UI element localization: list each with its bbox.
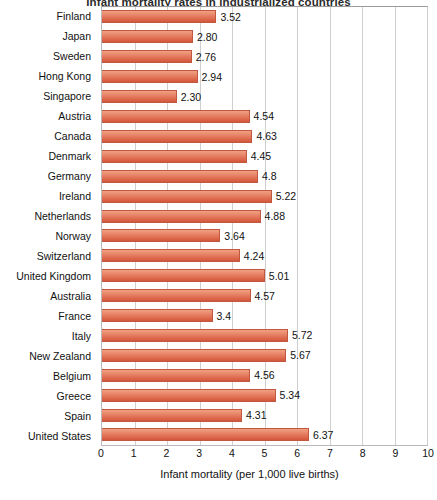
x-tick-label: 6: [294, 447, 300, 459]
bar-row: 3.4: [102, 306, 427, 326]
bar: [102, 389, 276, 402]
bar-value-label: 2.76: [196, 51, 216, 63]
x-tick-label: 5: [262, 447, 268, 459]
category-label: United States: [0, 426, 96, 446]
category-label: Ireland: [0, 186, 96, 206]
bar: [102, 150, 247, 163]
bar: [102, 369, 250, 382]
category-label: Netherlands: [0, 206, 96, 226]
bar-value-label: 6.37: [313, 429, 333, 441]
x-tick-label: 9: [392, 447, 398, 459]
bar-series: 3.522.802.762.942.304.544.634.454.85.224…: [102, 7, 427, 445]
bar-row: 4.54: [102, 107, 427, 127]
bar-value-label: 5.72: [292, 329, 312, 341]
bar: [102, 229, 220, 242]
bar-value-label: 5.67: [290, 349, 310, 361]
category-axis-labels: FinlandJapanSwedenHong KongSingaporeAust…: [0, 6, 96, 446]
bar-row: 4.57: [102, 286, 427, 306]
category-label: Canada: [0, 126, 96, 146]
bar: [102, 428, 309, 441]
category-label: Greece: [0, 386, 96, 406]
bar: [102, 409, 242, 422]
category-label: Hong Kong: [0, 66, 96, 86]
bar-value-label: 4.56: [254, 369, 274, 381]
bar-row: 5.22: [102, 186, 427, 206]
bar-value-label: 2.94: [202, 71, 222, 83]
infant-mortality-bar-chart: Infant mortality rates in industrialized…: [0, 0, 437, 500]
category-label: Singapore: [0, 86, 96, 106]
x-tick-label: 10: [422, 447, 434, 459]
category-label: France: [0, 306, 96, 326]
bar-value-label: 4.63: [256, 130, 276, 142]
x-axis-title-text: Infant mortality (per 1,000 live births): [160, 468, 339, 480]
bar-row: 4.45: [102, 146, 427, 166]
bar-row: 5.67: [102, 345, 427, 365]
x-tick-label: 7: [327, 447, 333, 459]
bar-row: 4.56: [102, 365, 427, 385]
bar-value-label: 3.64: [224, 230, 244, 242]
category-label: Switzerland: [0, 246, 96, 266]
bar-value-label: 4.57: [255, 290, 275, 302]
category-label: United Kingdom: [0, 266, 96, 286]
category-label: Austria: [0, 106, 96, 126]
gridline: [427, 7, 428, 445]
bar: [102, 349, 286, 362]
bar-value-label: 4.54: [254, 110, 274, 122]
category-label: Spain: [0, 406, 96, 426]
category-label: Australia: [0, 286, 96, 306]
bar-row: 2.76: [102, 47, 427, 67]
bar: [102, 90, 177, 103]
plot-area: 3.522.802.762.942.304.544.634.454.85.224…: [101, 6, 428, 446]
bar: [102, 10, 216, 23]
category-label: Finland: [0, 6, 96, 26]
bar: [102, 269, 265, 282]
category-label: Denmark: [0, 146, 96, 166]
bar-value-label: 5.01: [269, 270, 289, 282]
bar-value-label: 5.22: [276, 190, 296, 202]
bar-row: 4.63: [102, 126, 427, 146]
category-label: Germany: [0, 166, 96, 186]
bar: [102, 249, 240, 262]
x-tick-label: 3: [196, 447, 202, 459]
bar-value-label: 4.31: [246, 409, 266, 421]
bar-value-label: 3.4: [217, 310, 232, 322]
x-axis-title: Infant mortality (per 1,000 live births): [0, 468, 437, 480]
bar-row: 5.72: [102, 326, 427, 346]
bar: [102, 210, 261, 223]
bar: [102, 170, 258, 183]
bar-row: 4.88: [102, 206, 427, 226]
x-tick-label: 0: [98, 447, 104, 459]
bar: [102, 289, 251, 302]
bar-value-label: 4.8: [262, 170, 277, 182]
x-tick-label: 2: [163, 447, 169, 459]
bar: [102, 50, 192, 63]
x-tick-label: 8: [360, 447, 366, 459]
bar-row: 4.24: [102, 246, 427, 266]
category-label: Sweden: [0, 46, 96, 66]
bar: [102, 70, 198, 83]
bar-row: 2.80: [102, 27, 427, 47]
category-label: Belgium: [0, 366, 96, 386]
bar: [102, 190, 272, 203]
bar-row: 4.31: [102, 405, 427, 425]
bar-row: 6.37: [102, 425, 427, 445]
bar-row: 5.01: [102, 266, 427, 286]
bar-value-label: 4.24: [244, 250, 264, 262]
bar-value-label: 4.88: [265, 210, 285, 222]
bar-value-label: 2.30: [181, 91, 201, 103]
bar-row: 3.64: [102, 226, 427, 246]
x-tick-label: 1: [131, 447, 137, 459]
category-label: Norway: [0, 226, 96, 246]
bar-row: 2.94: [102, 67, 427, 87]
bar-row: 2.30: [102, 87, 427, 107]
bar: [102, 30, 193, 43]
category-label: Italy: [0, 326, 96, 346]
bar-value-label: 5.34: [280, 389, 300, 401]
bar: [102, 329, 288, 342]
category-label: Japan: [0, 26, 96, 46]
bar-row: 4.8: [102, 166, 427, 186]
bar: [102, 309, 213, 322]
bar: [102, 130, 252, 143]
bar-row: 5.34: [102, 385, 427, 405]
bar-row: 3.52: [102, 7, 427, 27]
